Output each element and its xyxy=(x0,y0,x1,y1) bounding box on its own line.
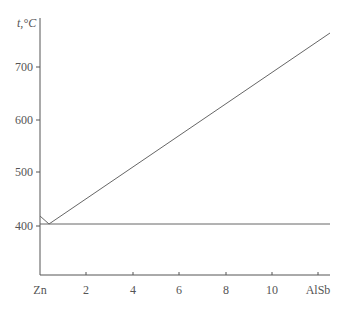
x-tick-2: 2 xyxy=(83,283,89,297)
y-tick-500: 500 xyxy=(15,165,33,179)
y-ticks: 700 600 500 400 xyxy=(15,60,40,233)
liquidus-line xyxy=(40,33,330,224)
x-tick-zn: Zn xyxy=(33,283,46,297)
x-tick-alsb: AlSb xyxy=(306,283,331,297)
phase-diagram: 700 600 500 400 t,°C Zn 2 4 6 8 10 AlSb xyxy=(0,0,347,310)
x-tick-10: 10 xyxy=(266,283,278,297)
y-tick-700: 700 xyxy=(15,60,33,74)
x-tick-8: 8 xyxy=(223,283,229,297)
x-ticks: Zn 2 4 6 8 10 AlSb xyxy=(33,272,330,297)
x-tick-6: 6 xyxy=(176,283,182,297)
y-tick-400: 400 xyxy=(15,219,33,233)
x-tick-4: 4 xyxy=(130,283,136,297)
y-axis-title: t,°C xyxy=(17,16,37,30)
y-tick-600: 600 xyxy=(15,113,33,127)
